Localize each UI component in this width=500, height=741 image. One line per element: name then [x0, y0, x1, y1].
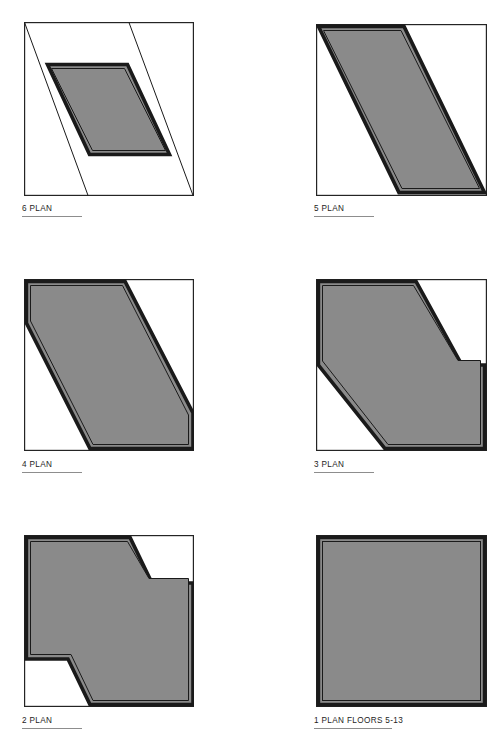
panel-plan-3[interactable] [316, 279, 487, 451]
plan-1-drawing [316, 535, 487, 707]
plan-5-label-rule [314, 216, 374, 217]
panel-plan-4[interactable] [24, 279, 194, 451]
plan-6-drawing [24, 22, 194, 196]
plan-3-drawing [316, 279, 487, 451]
plan-4-label: 4 PLAN [22, 460, 52, 470]
plan-2-drawing [24, 535, 194, 707]
plan-sheet: 6 PLAN 5 PLAN 4 PLAN 3 PLAN [0, 0, 500, 741]
panel-plan-5[interactable] [316, 24, 487, 196]
plan-3-label-rule [314, 472, 374, 473]
plan-4-label-rule [22, 472, 82, 473]
plan-1-inner-wall [323, 542, 481, 701]
plan-2-label-rule [22, 728, 82, 729]
panel-plan-1[interactable] [316, 535, 487, 707]
panel-plan-2[interactable] [24, 535, 194, 707]
plan-3-label: 3 PLAN [314, 460, 344, 470]
panel-plan-6[interactable] [24, 22, 194, 196]
plan-2-label: 2 PLAN [22, 716, 52, 726]
plan-4-drawing [24, 279, 194, 451]
plan-6-label: 6 PLAN [22, 204, 52, 214]
plan-5-drawing [316, 24, 487, 196]
plan-1-label-rule [314, 728, 392, 729]
plan-6-label-rule [22, 216, 82, 217]
plan-5-label: 5 PLAN [314, 204, 344, 214]
plan-1-label: 1 PLAN FLOORS 5-13 [314, 716, 403, 726]
